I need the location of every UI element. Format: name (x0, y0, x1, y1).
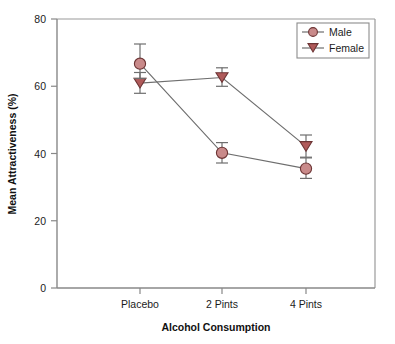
line-chart-canvas: 80 60 40 20 0 Placebo 2 Pints 4 Pints Al… (0, 0, 395, 344)
data-point-male-2-pints (216, 147, 227, 158)
legend-marker-male-circle-icon (309, 28, 318, 37)
x-tick-label-placebo: Placebo (121, 298, 159, 310)
x-axis-ticks (140, 288, 306, 294)
y-axis-title: Mean Attractiveness (%) (6, 94, 18, 215)
series-female-line (140, 78, 306, 147)
data-point-male-4-pints (300, 163, 311, 174)
x-axis-tick-labels: Placebo 2 Pints 4 Pints (121, 298, 322, 310)
chart-legend: Male Female (297, 23, 369, 58)
y-axis-ticks (51, 19, 57, 288)
data-point-female-4-pints (300, 142, 312, 152)
legend-label-female: Female (329, 42, 364, 54)
y-tick-label-40: 40 (34, 148, 46, 160)
y-tick-label-80: 80 (34, 13, 46, 25)
x-tick-label-2-pints: 2 Pints (206, 298, 238, 310)
y-tick-label-20: 20 (34, 215, 46, 227)
y-tick-label-0: 0 (40, 282, 46, 294)
y-tick-label-60: 60 (34, 80, 46, 92)
data-point-male-placebo (134, 58, 145, 69)
legend-label-male: Male (329, 26, 352, 38)
series-female (134, 68, 312, 157)
series-male (134, 44, 312, 178)
x-axis-title: Alcohol Consumption (161, 321, 270, 333)
chart-figure: 80 60 40 20 0 Placebo 2 Pints 4 Pints Al… (0, 0, 395, 344)
y-axis-tick-labels: 80 60 40 20 0 (34, 13, 46, 294)
x-tick-label-4-pints: 4 Pints (290, 298, 322, 310)
